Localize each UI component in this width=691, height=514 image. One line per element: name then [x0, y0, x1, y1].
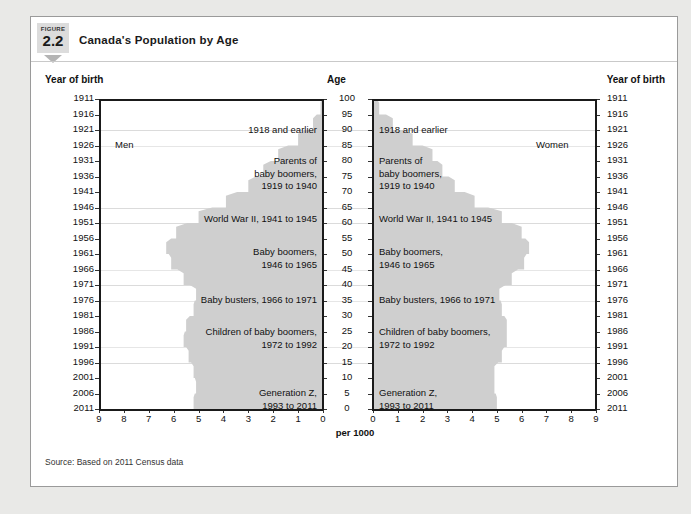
year-tick [596, 146, 600, 147]
year-label-left: 1961 [73, 248, 94, 258]
annotation-men-1918: 1918 and earlier [248, 124, 317, 137]
age-label: 95 [335, 109, 359, 119]
age-label: 25 [335, 326, 359, 336]
left-panel-outer-spine [99, 99, 101, 410]
age-tick [323, 378, 327, 379]
age-tick [323, 332, 327, 333]
annotation-women-children: Children of baby boomers, 1972 to 1992 [379, 326, 490, 351]
year-label-left: 1931 [73, 155, 94, 165]
age-label: 55 [335, 233, 359, 243]
year-label-left: 1951 [73, 217, 94, 227]
year-tick [596, 394, 600, 395]
year-tick [596, 223, 600, 224]
year-label-right: 2006 [607, 388, 628, 398]
left-axis-title: Year of birth [45, 74, 103, 85]
year-label-right: 1921 [607, 124, 628, 134]
year-label-left: 1996 [73, 357, 94, 367]
year-label-right: 1996 [607, 357, 628, 367]
age-label: 60 [335, 217, 359, 227]
age-label: 10 [335, 372, 359, 382]
year-label-right: 1936 [607, 171, 628, 181]
figure-title: Canada's Population by Age [79, 34, 239, 46]
age-label: 40 [335, 279, 359, 289]
figure-number: 2.2 [37, 33, 69, 49]
x-label-left: 6 [164, 413, 184, 424]
population-pyramid-chart: Year of birth Age Year of birth 19111911… [31, 61, 679, 441]
men-panel-label: Men [115, 139, 133, 150]
year-label-left: 1976 [73, 295, 94, 305]
x-label-right: 4 [462, 413, 482, 424]
year-label-right: 1976 [607, 295, 628, 305]
x-label-right: 9 [586, 413, 606, 424]
age-tick [323, 254, 327, 255]
year-label-left: 1956 [73, 233, 94, 243]
year-label-left: 1966 [73, 264, 94, 274]
annotation-men-wwii: World War II, 1941 to 1945 [204, 213, 317, 226]
year-label-left: 1941 [73, 186, 94, 196]
year-tick [596, 99, 600, 100]
age-tick [323, 316, 327, 317]
age-tick [323, 99, 327, 100]
annotation-women-wwii: World War II, 1941 to 1945 [379, 213, 492, 226]
annotation-women-parents: Parents of baby boomers, 1919 to 1940 [379, 155, 442, 193]
age-tick [323, 363, 327, 364]
year-tick [596, 115, 600, 116]
right-axis-title: Year of birth [607, 74, 665, 85]
age-tick [323, 177, 327, 178]
x-label-right: 1 [388, 413, 408, 424]
x-label-right: 3 [437, 413, 457, 424]
age-tick [323, 192, 327, 193]
annotation-women-genz: Generation Z, 1993 to 2011 [379, 387, 437, 412]
year-label-right: 1956 [607, 233, 628, 243]
year-label-right: 1981 [607, 310, 628, 320]
age-label: 70 [335, 186, 359, 196]
age-label: 30 [335, 310, 359, 320]
age-label: 15 [335, 357, 359, 367]
year-tick [596, 208, 600, 209]
year-tick [596, 192, 600, 193]
age-tick [323, 270, 327, 271]
age-tick [323, 347, 327, 348]
age-tick [323, 223, 327, 224]
source-note: Source: Based on 2011 Census data [45, 457, 183, 467]
age-tick [323, 161, 327, 162]
figure-number-badge: FIGURE 2.2 [37, 23, 69, 53]
x-label-left: 3 [238, 413, 258, 424]
age-label: 50 [335, 248, 359, 258]
age-tick [323, 146, 327, 147]
age-label: 85 [335, 140, 359, 150]
x-label-left: 8 [114, 413, 134, 424]
year-label-left: 1926 [73, 140, 94, 150]
center-axis-title: Age [327, 74, 346, 85]
age-tick [323, 394, 327, 395]
figure-header: FIGURE 2.2 Canada's Population by Age [31, 17, 677, 61]
figure-card: FIGURE 2.2 Canada's Population by Age Ye… [30, 16, 678, 487]
year-tick [596, 130, 600, 131]
age-label: 5 [335, 388, 359, 398]
year-tick [596, 177, 600, 178]
annotation-men-children: Children of baby boomers, 1972 to 1992 [206, 326, 317, 351]
age-tick [323, 285, 327, 286]
year-tick [596, 378, 600, 379]
x-label-right: 5 [487, 413, 507, 424]
x-label-left: 4 [213, 413, 233, 424]
left-panel-inner-spine [322, 99, 324, 410]
year-label-right: 1941 [607, 186, 628, 196]
year-label-left: 2006 [73, 388, 94, 398]
x-label-left: 2 [263, 413, 283, 424]
year-label-left: 1911 [74, 93, 94, 103]
x-axis-title: per 1000 [31, 427, 679, 438]
year-label-right: 1946 [607, 202, 628, 212]
age-label: 0 [335, 403, 359, 413]
year-label-left: 1981 [73, 310, 94, 320]
year-tick [596, 254, 600, 255]
right-panel-top-spine [372, 99, 596, 101]
year-label-left: 1936 [73, 171, 94, 181]
age-tick [323, 130, 327, 131]
x-label-right: 2 [413, 413, 433, 424]
annotation-men-genz: Generation Z, 1993 to 2011 [259, 387, 317, 412]
x-label-right: 6 [512, 413, 532, 424]
year-tick [596, 239, 600, 240]
year-label-right: 1961 [607, 248, 628, 258]
age-label: 100 [335, 93, 359, 103]
